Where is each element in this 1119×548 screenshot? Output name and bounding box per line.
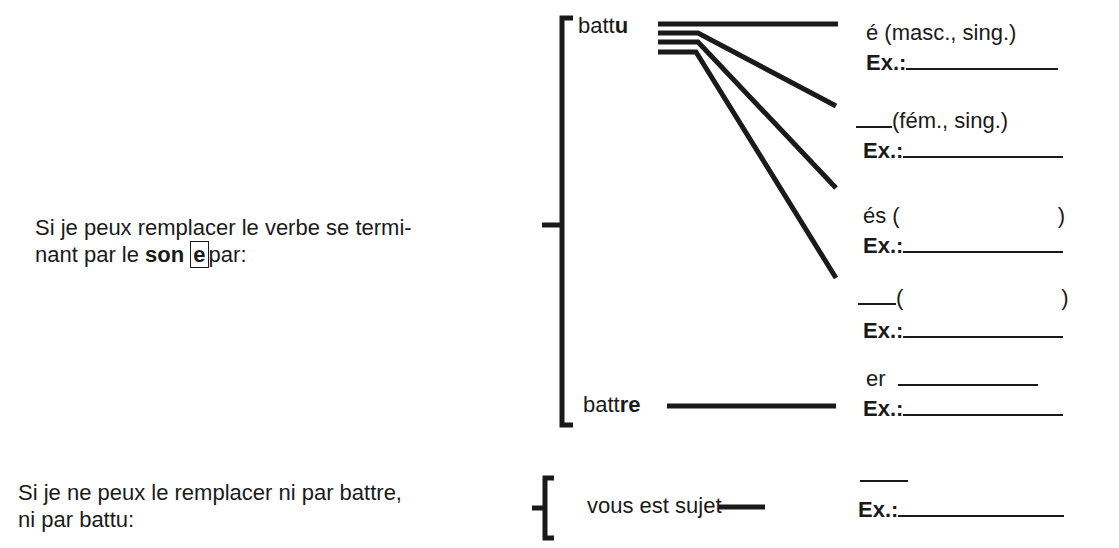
text: ( [896, 285, 903, 310]
ending-blank[interactable] [898, 384, 1038, 386]
ex-label: Ex.: [866, 50, 906, 75]
example-row: Ex.: [858, 497, 1064, 523]
answer-blank[interactable] [903, 414, 1063, 416]
rule2-text-line1: Si je ne peux le remplacer ni par battre… [18, 480, 402, 506]
ending-infinitive: er [866, 366, 1038, 392]
rule-text-line1: Si je peux remplacer le verbe se termi- [35, 215, 412, 241]
ex-label: Ex.: [863, 318, 903, 343]
battre-label: battre [583, 392, 641, 418]
vous-label: vous est sujet [587, 493, 722, 519]
text: és ( [863, 203, 900, 228]
ending-fem-plur: () [858, 285, 1069, 311]
answer-blank[interactable] [906, 68, 1058, 70]
ending-blank[interactable] [858, 303, 896, 305]
text: ) [1058, 203, 1065, 228]
rule-text-line2: nant par le son epar: [35, 242, 247, 268]
ex-label: Ex.: [863, 138, 903, 163]
ex-label: Ex.: [858, 497, 898, 522]
text: nant par le [35, 242, 145, 267]
answer-blank[interactable] [903, 156, 1063, 158]
answer-blank[interactable] [903, 251, 1063, 253]
second-bracket [545, 478, 554, 538]
battu-label: battu [578, 13, 628, 39]
example-row: Ex.: [863, 233, 1063, 259]
example-row: Ex.: [863, 318, 1063, 344]
answer-blank[interactable] [898, 515, 1064, 517]
answer-blank[interactable] [903, 336, 1063, 338]
ending-fem-sing: (fém., sing.) [856, 108, 1008, 134]
example-row: Ex.: [863, 138, 1063, 164]
text: par: [209, 242, 247, 267]
ending-masc-plur: és () [863, 203, 1065, 229]
connector-lines [0, 0, 1119, 548]
main-bracket [562, 18, 573, 425]
bold-son: son [145, 242, 184, 267]
stem: batt [578, 13, 615, 38]
example-row: Ex.: [866, 50, 1058, 76]
rule2-text-line2: ni par battu: [18, 507, 134, 533]
ending-blank[interactable] [856, 126, 892, 128]
ending: u [615, 13, 628, 38]
ending: re [620, 392, 641, 417]
stem: batt [583, 392, 620, 417]
ex-label: Ex.: [863, 396, 903, 421]
example-row: Ex.: [863, 396, 1063, 422]
text: er [866, 366, 886, 391]
ex-label: Ex.: [863, 233, 903, 258]
phoneme-e: e [190, 241, 208, 268]
text: ) [1061, 285, 1068, 310]
text: (fém., sing.) [892, 108, 1008, 133]
ending-masc-sing: é (masc., sing.) [866, 20, 1016, 46]
